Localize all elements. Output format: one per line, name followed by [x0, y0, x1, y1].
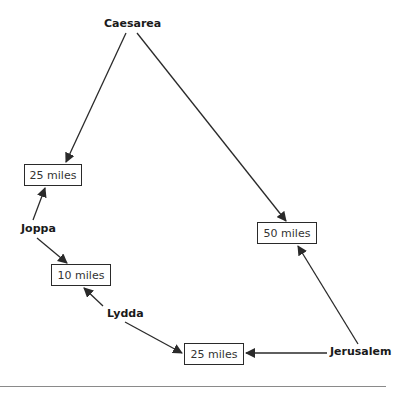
distance-box-caesarea-jerusalem: 50 miles	[257, 222, 317, 244]
distance-box-lydda-jerusalem: 25 miles	[184, 343, 244, 365]
horizontal-rule	[0, 386, 386, 387]
city-label-jerusalem: Jerusalem	[330, 345, 391, 358]
city-label-joppa: Joppa	[21, 222, 56, 235]
city-label-caesarea: Caesarea	[104, 17, 161, 30]
arrow-jerusalem-to-caesarea-distance	[298, 246, 358, 344]
city-label-lydda: Lydda	[107, 307, 144, 320]
arrow-joppa-to-caesarea-distance	[33, 188, 45, 220]
arrow-caesarea-to-jerusalem-distance	[137, 33, 286, 221]
distance-box-caesarea-joppa: 25 miles	[24, 164, 82, 186]
arrow-caesarea-to-joppa-distance	[66, 33, 126, 162]
arrows-layer	[0, 0, 400, 393]
distance-box-joppa-lydda: 10 miles	[51, 264, 111, 286]
arrow-lydda-to-joppa-distance	[84, 288, 103, 306]
distance-diagram: Caesarea Joppa Lydda Jerusalem 25 miles …	[0, 0, 400, 393]
arrow-lydda-to-jerusalem-distance	[125, 322, 182, 353]
arrow-joppa-to-lydda-distance	[37, 238, 67, 263]
